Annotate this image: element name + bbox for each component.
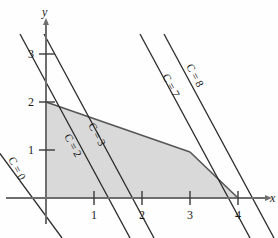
plot-canvas bbox=[0, 0, 278, 238]
y-tick-label-3: 3 bbox=[28, 48, 34, 60]
y-tick-label-1: 1 bbox=[28, 144, 34, 156]
y-axis-arrowhead bbox=[43, 18, 49, 25]
x-tick-label-3: 3 bbox=[187, 209, 193, 221]
x-tick-label-1: 1 bbox=[91, 209, 97, 221]
x-axis-label: x bbox=[270, 192, 275, 204]
linear-programming-graph: y x 1 2 3 4 1 2 3 C = 0 C = 2 C = 3 C = … bbox=[0, 0, 278, 238]
objective-line-c8 bbox=[164, 34, 274, 238]
x-tick-label-2: 2 bbox=[139, 209, 145, 221]
y-tick-label-2: 2 bbox=[28, 96, 34, 108]
y-axis-label: y bbox=[42, 6, 47, 18]
x-tick-label-4: 4 bbox=[235, 209, 241, 221]
